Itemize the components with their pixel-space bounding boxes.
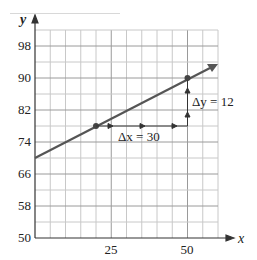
chart-frame: x y 50 58 66 74 82 90 98 25 50: [0, 0, 257, 260]
y-tick-labels: 50 58 66 74 82 90 98: [18, 38, 32, 245]
y-tick-58: 58: [18, 198, 31, 213]
x-axis-arrow-icon: [226, 235, 234, 241]
top-divider: [10, 13, 120, 14]
x-tick-labels: 25 50: [105, 242, 194, 257]
line-chart: x y 50 58 66 74 82 90 98 25 50: [0, 0, 257, 260]
axes: [32, 15, 234, 241]
delta-y-label: Δy = 12: [192, 94, 234, 109]
y-tick-90: 90: [18, 70, 31, 85]
y-tick-98: 98: [18, 38, 31, 53]
y-axis-arrow-icon: [32, 15, 38, 23]
x-axis-label: x: [237, 231, 245, 246]
x-tick-50: 50: [181, 242, 194, 257]
x-tick-25: 25: [105, 242, 118, 257]
y-axis-label: y: [18, 12, 27, 27]
delta-x-arrow: [96, 124, 188, 129]
y-tick-66: 66: [18, 166, 32, 181]
y-tick-50: 50: [18, 230, 31, 245]
delta-y-arrow: [185, 80, 190, 126]
delta-x-label: Δx = 30: [118, 129, 160, 144]
y-tick-82: 82: [18, 102, 31, 117]
y-tick-74: 74: [18, 134, 32, 149]
